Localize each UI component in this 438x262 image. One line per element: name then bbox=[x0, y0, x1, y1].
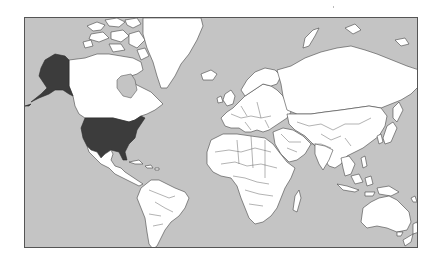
greenland bbox=[143, 18, 203, 88]
map-canvas bbox=[25, 18, 418, 248]
south-america bbox=[137, 180, 189, 248]
canadian-arctic-islands bbox=[83, 18, 149, 60]
new-zealand bbox=[413, 222, 418, 234]
scan-artifact bbox=[333, 6, 334, 8]
madagascar bbox=[293, 190, 301, 212]
southeast-asia bbox=[341, 156, 355, 176]
iceland bbox=[201, 70, 217, 80]
novaya-zemlya bbox=[303, 28, 319, 48]
caribbean-islands bbox=[129, 160, 159, 170]
australia bbox=[361, 196, 411, 232]
canada bbox=[69, 54, 163, 122]
mexico-central-america bbox=[87, 146, 143, 186]
world-map bbox=[24, 17, 418, 248]
british-isles bbox=[223, 90, 235, 106]
alaska bbox=[31, 54, 73, 102]
